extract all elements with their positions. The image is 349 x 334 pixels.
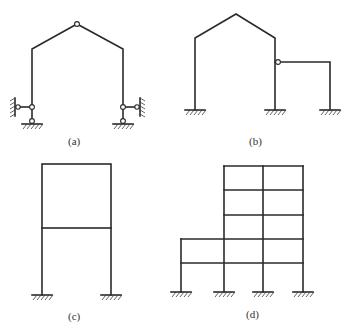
label-b: (b) <box>249 135 262 148</box>
hinge-icon <box>75 22 80 27</box>
label-c: (c) <box>68 310 81 323</box>
figure-d: (d) <box>171 166 314 321</box>
figure-a: (a) <box>10 22 145 148</box>
label-d: (d) <box>246 308 259 321</box>
label-a: (a) <box>68 135 81 148</box>
figure-c: (c) <box>32 164 122 323</box>
structural-diagrams: (a) (b) (c) (d) <box>0 0 349 334</box>
figure-b: (b) <box>185 14 341 148</box>
hinge-icon <box>276 60 281 65</box>
